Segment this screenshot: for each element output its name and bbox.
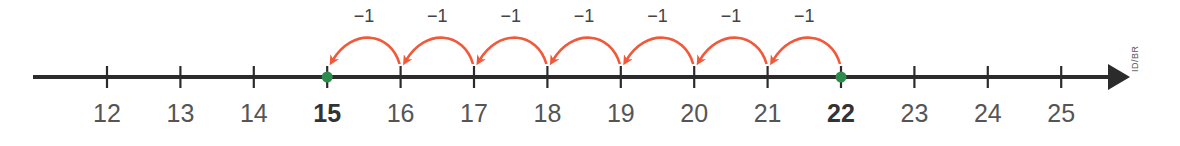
tick-label-22: 22 <box>827 99 855 127</box>
tick-label-15: 15 <box>313 99 341 127</box>
jump-arrow-18-to-17 <box>479 38 546 64</box>
tick-label-25: 25 <box>1047 99 1075 127</box>
jump-arrow-16-to-15 <box>332 38 399 64</box>
jump-arrow-22-to-21 <box>773 38 840 64</box>
tick-label-20: 20 <box>680 99 708 127</box>
tick-label-13: 13 <box>166 99 194 127</box>
tick-label-16: 16 <box>387 99 415 127</box>
jump-label: −1 <box>500 6 521 26</box>
tick-label-23: 23 <box>900 99 928 127</box>
jump-arrows: −1−1−1−1−1−1−1 <box>332 6 840 64</box>
tick-label-18: 18 <box>533 99 561 127</box>
jump-arrow-17-to-16 <box>406 38 473 64</box>
jump-label: −1 <box>794 6 815 26</box>
jump-label: −1 <box>427 6 448 26</box>
tick-label-24: 24 <box>974 99 1002 127</box>
tick-label-19: 19 <box>607 99 635 127</box>
jump-label: −1 <box>721 6 742 26</box>
tick-label-21: 21 <box>754 99 782 127</box>
image-credit: ID/BR <box>1130 45 1140 72</box>
tick-label-12: 12 <box>93 99 121 127</box>
tick-label-17: 17 <box>460 99 488 127</box>
number-line-diagram: 1213141516171819202122232425 −1−1−1−1−1−… <box>0 0 1180 146</box>
point-15 <box>322 72 333 83</box>
jump-label: −1 <box>647 6 668 26</box>
tick-labels: 1213141516171819202122232425 <box>93 99 1075 127</box>
point-22 <box>836 72 847 83</box>
number-line-axis <box>33 64 1130 90</box>
jump-arrow-19-to-18 <box>552 38 619 64</box>
jump-label: −1 <box>354 6 375 26</box>
jump-label: −1 <box>574 6 595 26</box>
jump-arrow-21-to-20 <box>699 38 766 64</box>
arrow-right-icon <box>1108 64 1130 90</box>
tick-label-14: 14 <box>240 99 268 127</box>
jump-arrow-20-to-19 <box>626 38 693 64</box>
